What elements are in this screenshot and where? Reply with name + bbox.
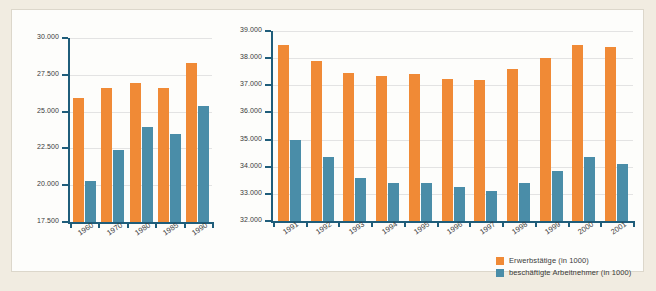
x-axis-tick <box>469 222 471 227</box>
bar-1992-arbeitnehmer <box>323 157 334 221</box>
chart-page: 17.50020.00022.50025.00027.50030.0001960… <box>0 0 656 291</box>
bar-1994-arbeitnehmer <box>388 183 399 221</box>
gridline <box>273 31 633 32</box>
x-axis-tick <box>127 223 129 228</box>
x-axis-tick <box>633 222 635 227</box>
x-axis-tick <box>155 223 157 228</box>
y-axis-tick-label: 22.500 <box>29 143 59 150</box>
x-axis-tick <box>535 222 537 227</box>
legend-label-arbeitnehmer: beschäftigte Arbeitnehmer (in 1000) <box>509 268 631 277</box>
y-axis-tick-label: 35.000 <box>232 135 262 142</box>
bar-1985-arbeitnehmer <box>170 134 181 222</box>
y-axis-tick <box>265 84 271 86</box>
bar-1998-arbeitnehmer <box>519 183 530 221</box>
x-axis-tick <box>306 222 308 227</box>
bar-1985-erwerbstaetige <box>158 88 169 222</box>
bar-1999-arbeitnehmer <box>552 171 563 221</box>
y-axis-tick <box>62 111 68 113</box>
bar-1995-arbeitnehmer <box>421 183 432 221</box>
legend-swatch-icon-erwerbstaetige <box>496 257 504 265</box>
chart-left-1960-1990: 17.50020.00022.50025.00027.50030.0001960… <box>34 22 224 247</box>
bar-1990-erwerbstaetige <box>186 63 197 222</box>
bar-1990-arbeitnehmer <box>198 106 209 222</box>
y-axis-tick-label: 20.000 <box>29 180 59 187</box>
y-axis-tick <box>265 57 271 59</box>
bar-1994-erwerbstaetige <box>376 76 387 221</box>
y-axis-tick-label: 17.500 <box>29 217 59 224</box>
x-axis-tick <box>212 223 214 228</box>
plot-area-left: 17.50020.00022.50025.00027.50030.0001960… <box>70 38 212 222</box>
y-axis-tick <box>265 139 271 141</box>
y-axis-tick-label: 39.000 <box>232 26 262 33</box>
x-axis-tick <box>600 222 602 227</box>
x-axis-tick <box>568 222 570 227</box>
bar-1960-erwerbstaetige <box>73 98 84 222</box>
y-axis-tick-label: 27.500 <box>29 70 59 77</box>
bar-2000-arbeitnehmer <box>584 157 595 221</box>
y-axis-tick-label: 32.000 <box>232 216 262 223</box>
y-axis-tick <box>62 37 68 39</box>
bar-1999-erwerbstaetige <box>540 58 551 221</box>
bar-2001-erwerbstaetige <box>605 47 616 221</box>
bar-1998-erwerbstaetige <box>507 69 518 221</box>
bar-1970-erwerbstaetige <box>101 88 112 222</box>
y-axis-tick <box>265 166 271 168</box>
bar-1997-erwerbstaetige <box>474 80 485 221</box>
bar-1993-erwerbstaetige <box>343 73 354 221</box>
bar-2000-erwerbstaetige <box>572 45 583 221</box>
y-axis-tick-label: 38.000 <box>232 53 262 60</box>
x-axis-tick <box>98 223 100 228</box>
y-axis-line <box>271 31 273 222</box>
bar-1991-erwerbstaetige <box>278 45 289 221</box>
bar-1996-arbeitnehmer <box>454 187 465 221</box>
y-axis-tick-label: 34.000 <box>232 162 262 169</box>
bar-1993-arbeitnehmer <box>355 178 366 221</box>
legend-label-erwerbstaetige: Erwerbstätige (in 1000) <box>509 256 589 265</box>
x-axis-tick <box>502 222 504 227</box>
gridline <box>70 38 212 39</box>
y-axis-tick <box>265 30 271 32</box>
bar-1991-arbeitnehmer <box>290 140 301 221</box>
y-axis-tick-label: 36.000 <box>232 107 262 114</box>
legend-swatch-icon-arbeitnehmer <box>496 269 504 277</box>
legend-item-erwerbstaetige[interactable]: Erwerbstätige (in 1000) <box>496 256 656 265</box>
y-axis-tick-label: 25.000 <box>29 107 59 114</box>
chart-right-1991-2001: 32.00033.00034.00035.00036.00037.00038.0… <box>240 14 640 247</box>
y-axis-line <box>68 38 70 223</box>
y-axis-tick <box>265 193 271 195</box>
x-axis-tick <box>70 223 72 228</box>
bar-1995-erwerbstaetige <box>409 74 420 221</box>
x-axis-tick <box>404 222 406 227</box>
chart-panel: 17.50020.00022.50025.00027.50030.0001960… <box>11 9 644 272</box>
y-axis-tick <box>62 147 68 149</box>
plot-area-right: 32.00033.00034.00035.00036.00037.00038.0… <box>273 31 633 221</box>
y-axis-tick-label: 37.000 <box>232 80 262 87</box>
x-axis-tick <box>437 222 439 227</box>
x-axis-tick <box>273 222 275 227</box>
chart-legend: Erwerbstätige (in 1000) beschäftigte Arb… <box>496 256 656 280</box>
y-axis-tick <box>265 111 271 113</box>
x-axis-tick <box>371 222 373 227</box>
x-axis-tick <box>338 222 340 227</box>
bar-1980-erwerbstaetige <box>130 83 141 222</box>
bar-1997-arbeitnehmer <box>486 191 497 221</box>
bar-2001-arbeitnehmer <box>617 164 628 221</box>
bar-1970-arbeitnehmer <box>113 150 124 222</box>
bar-1980-arbeitnehmer <box>142 127 153 222</box>
y-axis-tick <box>62 74 68 76</box>
bar-1996-erwerbstaetige <box>442 79 453 222</box>
x-axis-tick <box>184 223 186 228</box>
y-axis-tick <box>62 184 68 186</box>
y-axis-tick-label: 30.000 <box>29 33 59 40</box>
y-axis-tick-label: 33.000 <box>232 189 262 196</box>
bar-1960-arbeitnehmer <box>85 181 96 222</box>
bar-1992-erwerbstaetige <box>311 61 322 221</box>
legend-item-arbeitnehmer[interactable]: beschäftigte Arbeitnehmer (in 1000) <box>496 268 656 277</box>
